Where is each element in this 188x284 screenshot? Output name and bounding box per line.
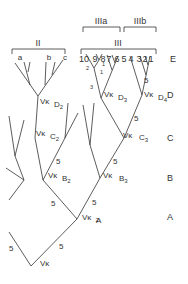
branch-5-c2: 5 xyxy=(51,199,56,208)
node-vk-C2: Vκ xyxy=(36,129,46,138)
node-suffixes: A B3 B2 C3 C2 D3 D4 D2 xyxy=(50,93,168,225)
level-labels: E D C B A xyxy=(167,54,176,222)
level-E: E xyxy=(170,54,176,64)
branch-length-labels: 5 5 5 5 5 5 5 5 xyxy=(9,76,149,253)
group-label-III: III xyxy=(114,38,122,48)
group-label-II: II xyxy=(35,38,40,48)
branch-5-a2: 5 xyxy=(92,198,97,207)
group-label-IIIb: IIIb xyxy=(134,16,147,26)
node-vk-C3: Vκ xyxy=(123,131,133,140)
node-vk-B3: Vκ xyxy=(103,171,113,180)
leaf-1: 1 xyxy=(148,54,153,64)
branch-5-b2: 5 xyxy=(56,157,61,166)
subgroup-label-b: b xyxy=(47,53,52,62)
suffix-B2: B2 xyxy=(62,174,71,184)
node-vk-D3: Vκ xyxy=(104,90,114,99)
suffix-B3: B3 xyxy=(119,174,128,184)
level-B: B xyxy=(167,173,173,183)
leaf-9: 9 xyxy=(92,54,97,64)
level-D: D xyxy=(167,90,174,100)
node-vk-B2: Vκ xyxy=(48,171,58,180)
leaf-3: 3 xyxy=(136,54,141,64)
leaf-6: 6 xyxy=(114,54,119,64)
leaf-5: 5 xyxy=(121,54,126,64)
node-vk-root: Vκ xyxy=(40,259,50,268)
level-C: C xyxy=(167,133,174,143)
node-vk-D2: Vκ xyxy=(40,97,50,106)
leaf-4: 4 xyxy=(128,54,133,64)
suffix-C2: C2 xyxy=(50,132,60,142)
branch-label-1a: 1 xyxy=(102,61,105,67)
node-vk-D4: Vκ xyxy=(144,90,154,99)
branch-5-c3: 5 xyxy=(134,114,139,123)
suffix-D3: D3 xyxy=(118,93,128,103)
branch-5-left: 5 xyxy=(9,244,14,253)
branch-label-3: 3 xyxy=(90,84,93,90)
branch-5-root: 5 xyxy=(59,242,64,251)
branch-label-2: 2 xyxy=(86,65,89,71)
branch-5-b3: 5 xyxy=(113,157,118,166)
subgroup-label-a: a xyxy=(18,53,23,62)
leaf-10: 10 xyxy=(79,54,89,64)
suffix-A2: A xyxy=(96,216,102,225)
leaf-7: 7 xyxy=(106,54,111,64)
subgroup-label-c: c xyxy=(63,53,67,62)
leaf-2: 2 xyxy=(142,54,147,64)
branch-5-d4: 5 xyxy=(144,76,149,85)
group-label-IIIa: IIIa xyxy=(95,16,108,26)
leaf-labels: 10 9 8 7 6 5 4 3 2 1 xyxy=(79,54,154,64)
suffix-D2: D2 xyxy=(54,100,64,110)
suffix-C3: C3 xyxy=(139,133,149,143)
branch-label-1b: 1 xyxy=(100,69,103,75)
level-A: A xyxy=(167,212,173,222)
phylogeny-diagram: II III IIIa IIIb a b c 10 9 8 7 6 5 4 3 … xyxy=(0,0,188,284)
